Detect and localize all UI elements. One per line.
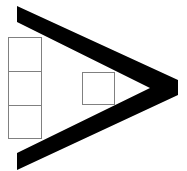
diagram-canvas <box>0 0 187 171</box>
stacked-box-top <box>9 38 42 72</box>
stacked-box-middle <box>9 72 42 106</box>
diagram-svg <box>0 0 187 171</box>
single-box <box>83 73 115 105</box>
stacked-box-bottom <box>9 106 42 139</box>
